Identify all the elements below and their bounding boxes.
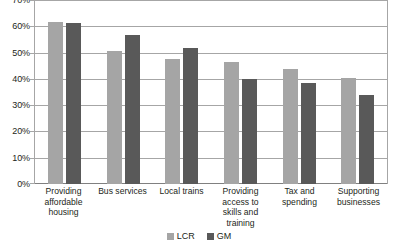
bar-gm bbox=[301, 83, 316, 184]
y-axis-tick-label: 10% bbox=[12, 153, 30, 162]
bar-group bbox=[35, 0, 94, 184]
y-axis-tick-label: 60% bbox=[12, 22, 30, 31]
y-axis-tick-label: 0% bbox=[17, 180, 30, 189]
bar-lcr bbox=[341, 78, 356, 184]
x-axis-category-labels: Providing affordable housing Bus service… bbox=[34, 186, 388, 228]
legend-item-gm[interactable]: GM bbox=[207, 232, 232, 241]
bar-chart: 70% 60% 50% 40% 30% 20% 10% 0% bbox=[0, 0, 398, 248]
plot-area bbox=[34, 0, 388, 184]
bar-gm bbox=[242, 79, 257, 184]
x-axis-label: Providing affordable housing bbox=[34, 186, 93, 228]
x-axis-label: Local trains bbox=[152, 186, 211, 228]
x-axis-label: Tax and spending bbox=[270, 186, 329, 228]
bar-group bbox=[211, 0, 270, 184]
legend-item-lcr[interactable]: LCR bbox=[167, 232, 195, 241]
legend-label: GM bbox=[217, 232, 232, 241]
y-axis-tick-label: 20% bbox=[12, 127, 30, 136]
chart-legend: LCR GM bbox=[0, 229, 398, 243]
y-axis-tick-label: 30% bbox=[12, 101, 30, 110]
legend-swatch-icon bbox=[167, 233, 174, 240]
legend-label: LCR bbox=[177, 232, 195, 241]
bar-lcr bbox=[48, 22, 63, 184]
x-axis-label: Providing access to skills and training bbox=[211, 186, 270, 228]
bar-lcr bbox=[283, 69, 298, 184]
bar-gm bbox=[125, 35, 140, 184]
bar-group bbox=[152, 0, 211, 184]
bar-group bbox=[328, 0, 387, 184]
bar-group bbox=[94, 0, 153, 184]
x-axis-label: Bus services bbox=[93, 186, 152, 228]
bar-lcr bbox=[107, 51, 122, 184]
y-axis-tick-label: 40% bbox=[12, 74, 30, 83]
bar-series-container bbox=[35, 0, 387, 184]
bar-lcr bbox=[224, 62, 239, 184]
bar-gm bbox=[359, 95, 374, 184]
bar-gm bbox=[66, 23, 81, 184]
bar-lcr bbox=[165, 59, 180, 184]
bar-group bbox=[270, 0, 329, 184]
x-axis-label: Supporting businesses bbox=[329, 186, 388, 228]
y-axis-tick-label: 50% bbox=[12, 48, 30, 57]
y-axis: 70% 60% 50% 40% 30% 20% 10% 0% bbox=[0, 0, 34, 184]
legend-swatch-icon bbox=[207, 233, 214, 240]
y-axis-tick-label: 70% bbox=[12, 0, 30, 5]
bar-gm bbox=[183, 48, 198, 184]
